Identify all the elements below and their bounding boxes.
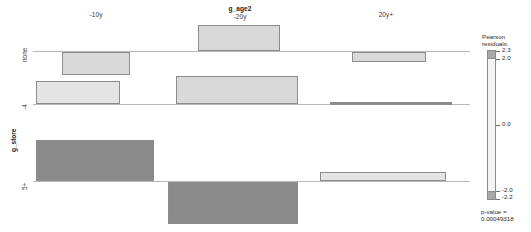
legend-tick-mark-0-0 bbox=[496, 125, 500, 126]
row-label-5plus: 5+ bbox=[21, 183, 28, 190]
tile-5plus--10y bbox=[36, 140, 154, 181]
tile-5plus-20yplus bbox=[320, 172, 446, 181]
column-label--10y: -10y bbox=[65, 11, 127, 18]
tile-none-20yplus bbox=[352, 52, 426, 62]
legend-segment-low bbox=[487, 191, 496, 200]
row-label-none: none bbox=[21, 48, 28, 62]
legend-tick-mark-2-0 bbox=[496, 59, 500, 60]
x-variable-title: g_age2 bbox=[200, 5, 280, 12]
tile-none--10y bbox=[62, 52, 130, 75]
legend-tick-label-minus-2-2: -2.2 bbox=[502, 194, 513, 201]
tile-none--20y bbox=[198, 25, 280, 51]
tile-minus4-20yplus bbox=[330, 102, 452, 105]
legend-tick-label-0-0: 0.0 bbox=[502, 121, 511, 128]
legend-segment-high bbox=[487, 50, 496, 59]
column-label--20y: -20y bbox=[200, 13, 280, 20]
legend-tick-label-2-0: 2.0 bbox=[502, 55, 511, 62]
tile-minus4--10y bbox=[36, 81, 120, 104]
legend-tick-mark-minus-2-0 bbox=[496, 191, 500, 192]
row-label-minus4: -4 bbox=[21, 104, 28, 110]
association-plot: -10y g_age2 -20y 20y+ none -4 5+ g_store… bbox=[0, 0, 531, 232]
y-variable-title: g_store bbox=[10, 129, 17, 152]
tile-minus4--20y bbox=[176, 76, 298, 104]
legend-tick-mark-2-3 bbox=[496, 51, 500, 52]
legend-tick-mark-minus-2-2 bbox=[496, 199, 500, 200]
column-label-20yplus: 20y+ bbox=[355, 11, 417, 18]
legend-tick-label-2-3: 2.3 bbox=[502, 47, 511, 54]
tile-5plus--20y bbox=[168, 182, 298, 224]
legend-gradient-bar bbox=[487, 50, 496, 200]
pvalue-value: 0.00049318 bbox=[481, 215, 514, 222]
